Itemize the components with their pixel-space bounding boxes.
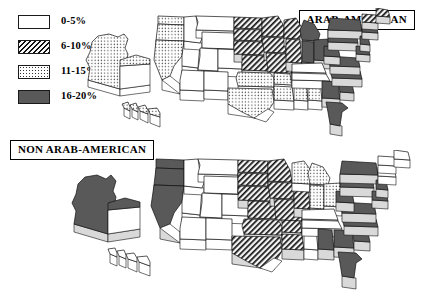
legend-swatch-6-10 <box>18 40 50 54</box>
legend-swatch-11-15 <box>18 65 50 79</box>
state-ca-bottom <box>151 185 184 243</box>
state-ak-bottom <box>72 175 140 242</box>
state-az-top <box>180 70 204 101</box>
state-ca-top <box>154 40 184 94</box>
map-arab-american <box>78 8 418 140</box>
state-me-top <box>376 8 390 24</box>
state-me-bottom <box>394 150 410 168</box>
state-tx-bottom <box>232 236 282 272</box>
state-hi-bottom <box>108 248 150 276</box>
state-vt-nh-top <box>362 14 378 30</box>
state-nm-top <box>204 71 228 100</box>
state-la-bottom <box>282 234 304 260</box>
state-nm-bottom <box>206 218 232 250</box>
state-ny-top <box>328 18 362 39</box>
figure-canvas: 0-5% 6-10% 11-15% 16-20% ARAB-AMERICAN N… <box>0 0 425 298</box>
state-hi-top <box>122 102 160 127</box>
state-ak-top <box>86 34 150 96</box>
legend-swatch-0-5 <box>18 15 50 29</box>
state-fl-top <box>326 102 348 136</box>
state-az-bottom <box>180 217 206 250</box>
state-al-bottom <box>318 229 334 260</box>
state-vt-nh-bottom <box>378 156 396 174</box>
state-la-top <box>274 86 294 110</box>
map-non-arab-american <box>60 150 420 296</box>
state-fl-bottom <box>338 252 362 289</box>
state-ny-bottom <box>340 161 378 184</box>
state-tx-top <box>228 88 274 122</box>
legend-swatch-16-20 <box>18 90 50 104</box>
